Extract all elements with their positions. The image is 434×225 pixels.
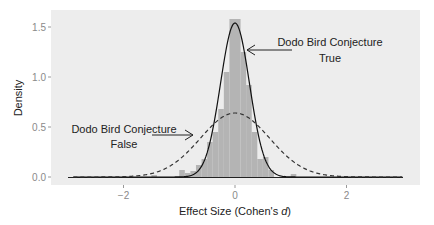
annotation-true-line1: Dodo Bird Conjecture (277, 36, 382, 48)
y-axis: 0.00.51.01.5 (32, 22, 51, 183)
y-tick-label: 0.5 (32, 122, 46, 133)
y-tick-label: 1.0 (32, 72, 46, 83)
annotation-true-line2: True (319, 52, 341, 64)
y-tick-label: 1.5 (32, 22, 46, 33)
x-tick-label: −2 (118, 190, 130, 201)
x-axis-title: Effect Size (Cohen's d) (179, 205, 291, 217)
histogram-bar (257, 159, 263, 177)
histogram-bar (224, 72, 230, 177)
y-axis-title: Density (12, 79, 24, 116)
histogram-bar (207, 142, 213, 177)
x-tick-label: 0 (232, 190, 238, 201)
histogram-bar (235, 19, 241, 177)
histogram-bar (179, 170, 185, 177)
x-tick-label: 2 (344, 190, 350, 201)
x-axis: −202 (118, 185, 350, 201)
histogram-bar (246, 85, 252, 177)
density-chart: 0.00.51.01.5 −202 Density Effect Size (C… (0, 0, 434, 225)
histogram-bar (229, 19, 235, 177)
y-tick-label: 0.0 (32, 172, 46, 183)
annotation-false-line2: False (111, 138, 138, 150)
histogram-bar (252, 132, 258, 177)
histogram-bar (218, 109, 224, 177)
annotation-false-line1: Dodo Bird Conjecture (71, 123, 176, 135)
histogram-bar (213, 132, 219, 177)
